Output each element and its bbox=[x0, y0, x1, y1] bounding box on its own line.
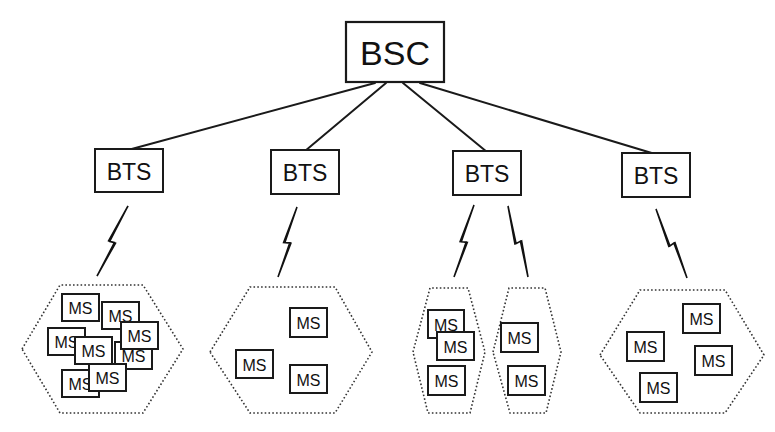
ms-label: MS bbox=[690, 311, 714, 328]
ms-label: MS bbox=[634, 339, 658, 356]
mobile-station: MS bbox=[290, 308, 327, 337]
bsc-label: BSC bbox=[360, 34, 430, 72]
ms-label: MS bbox=[297, 372, 321, 389]
mobile-station: MS bbox=[695, 346, 732, 375]
ms-label: MS bbox=[243, 357, 267, 374]
mobile-station: MS bbox=[290, 365, 327, 393]
radio-lightning-icon bbox=[656, 209, 687, 278]
mobile-station: MS bbox=[627, 332, 664, 361]
mobile-station: MS bbox=[683, 304, 720, 333]
ms-label: MS bbox=[435, 373, 459, 390]
mobile-station: MS bbox=[640, 373, 677, 402]
bts-node-2: BTS bbox=[271, 150, 339, 194]
link-bsc-bts-2 bbox=[305, 83, 386, 151]
mobile-station: MS bbox=[428, 366, 465, 395]
mobile-station: MS bbox=[508, 366, 545, 395]
radio-lightning-icon bbox=[508, 206, 528, 277]
mobile-station: MS bbox=[437, 332, 474, 360]
mobile-station: MS bbox=[501, 323, 538, 352]
link-bsc-bts-4 bbox=[420, 83, 655, 154]
bts-label: BTS bbox=[107, 159, 152, 185]
bts-label: BTS bbox=[465, 161, 510, 187]
wired-links bbox=[128, 83, 655, 154]
radio-links bbox=[97, 205, 687, 278]
mobile-station: MS bbox=[89, 364, 126, 391]
bts-node-1: BTS bbox=[95, 149, 163, 192]
link-bsc-bts-1 bbox=[128, 83, 375, 150]
cell-hexagon-2 bbox=[210, 287, 372, 413]
bsc-node: BSC bbox=[346, 22, 444, 82]
ms-label: MS bbox=[297, 315, 321, 332]
link-bsc-bts-3 bbox=[403, 83, 487, 152]
mobile-station: MS bbox=[236, 350, 273, 378]
radio-lightning-icon bbox=[278, 207, 297, 277]
ms-label: MS bbox=[508, 330, 532, 347]
radio-lightning-icon bbox=[454, 205, 474, 277]
bts-node-3: BTS bbox=[453, 151, 521, 195]
ms-label: MS bbox=[434, 317, 458, 334]
ms-label: MS bbox=[702, 353, 726, 370]
bts-node-4: BTS bbox=[622, 153, 690, 197]
ms-label: MS bbox=[69, 300, 93, 317]
mobile-station: MS bbox=[62, 294, 99, 321]
mobile-station: MS bbox=[75, 337, 112, 364]
mobile-stations: MSMSMSMSMSMSMSMSMSMSMSMSMSMSMSMSMSMSMSMS bbox=[48, 294, 732, 402]
ms-label: MS bbox=[128, 328, 152, 345]
ms-label: MS bbox=[515, 373, 539, 390]
bts-label: BTS bbox=[634, 163, 679, 189]
bsc-bts-ms-diagram: BSC BTSBTSBTSBTS MSMSMSMSMSMSMSMSMSMSMSM… bbox=[0, 0, 775, 432]
ms-label: MS bbox=[444, 339, 468, 356]
ms-label: MS bbox=[96, 370, 120, 387]
ms-label: MS bbox=[82, 343, 106, 360]
network-nodes: BSC BTSBTSBTSBTS bbox=[95, 22, 690, 197]
ms-label: MS bbox=[647, 380, 671, 397]
bts-label: BTS bbox=[283, 160, 328, 186]
radio-lightning-icon bbox=[97, 206, 128, 276]
mobile-station: MS bbox=[121, 322, 158, 349]
ms-label: MS bbox=[122, 348, 146, 365]
